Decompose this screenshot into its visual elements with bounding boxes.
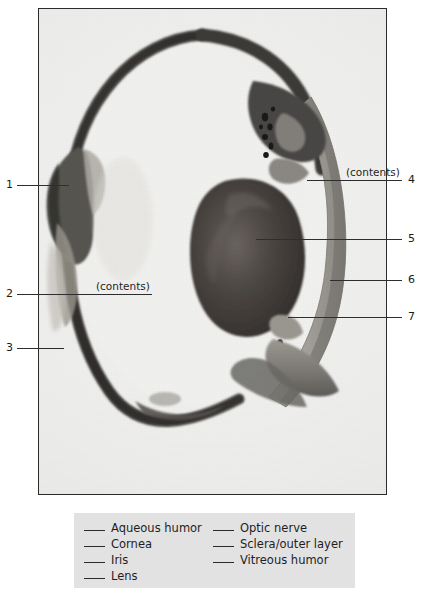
callout-number-3: 3: [6, 342, 13, 353]
legend-column-left: Aqueous humorCorneaIrisLens: [84, 522, 202, 586]
answer-blank-line[interactable]: [84, 562, 105, 563]
leader-line-1: [17, 185, 69, 186]
callout-note-4: (contents): [346, 167, 400, 178]
legend-item[interactable]: Sclera/outer layer: [213, 538, 343, 553]
answer-blank-line[interactable]: [84, 530, 105, 531]
callout-note-2: (contents): [96, 281, 150, 292]
callout-number-1: 1: [6, 179, 13, 190]
iris-ciliary-superior: [269, 159, 309, 184]
specimen-photograph: [38, 8, 387, 495]
legend-item-label: Cornea: [111, 538, 152, 551]
answer-blank-line[interactable]: [213, 562, 234, 563]
legend-item[interactable]: Cornea: [84, 538, 202, 553]
legend-item-label: Optic nerve: [240, 522, 307, 535]
aqueous-humor-region: [93, 157, 153, 281]
legend-item[interactable]: Vitreous humor: [213, 554, 343, 569]
callout-number-2: 2: [6, 288, 13, 299]
leader-line-5: [256, 239, 402, 240]
callout-number-6: 6: [408, 274, 415, 285]
legend-column-right: Optic nerveSclera/outer layerVitreous hu…: [213, 522, 343, 570]
inferior-wall-highlight: [149, 392, 181, 406]
answer-blank-line[interactable]: [84, 578, 105, 579]
callout-number-5: 5: [408, 233, 415, 244]
legend-item[interactable]: Iris: [84, 554, 202, 569]
leader-line-4: [307, 180, 402, 181]
callout-number-7: 7: [408, 311, 415, 322]
legend-item[interactable]: Lens: [84, 570, 202, 585]
legend-item[interactable]: Aqueous humor: [84, 522, 202, 537]
legend-item-label: Lens: [111, 570, 138, 583]
callout-number-4: 4: [408, 174, 415, 185]
legend-item-label: Aqueous humor: [111, 522, 202, 535]
answer-blank-line[interactable]: [213, 546, 234, 547]
answer-blank-line[interactable]: [213, 530, 234, 531]
answer-key-legend: Aqueous humorCorneaIrisLens Optic nerveS…: [74, 513, 355, 588]
leader-line-3: [17, 348, 64, 349]
leader-line-6: [330, 280, 402, 281]
answer-blank-line[interactable]: [84, 546, 105, 547]
legend-item-label: Sclera/outer layer: [240, 538, 343, 551]
legend-item-label: Vitreous humor: [240, 554, 328, 567]
legend-item-label: Iris: [111, 554, 128, 567]
leader-line-7: [288, 317, 402, 318]
eye-specimen-illustration: [39, 9, 387, 495]
leader-line-2: [17, 294, 152, 295]
legend-item[interactable]: Optic nerve: [213, 522, 343, 537]
